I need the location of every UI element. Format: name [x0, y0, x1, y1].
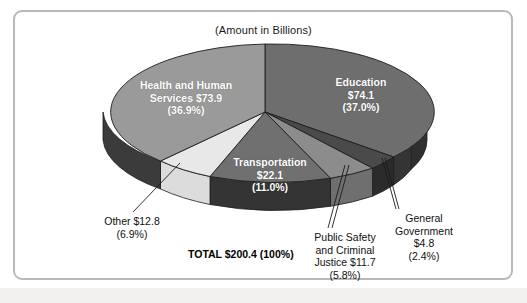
label-health-human-services: Health and Human Services $73.9 (36.9%): [118, 79, 254, 117]
label-general-government-value: $4.8: [378, 237, 470, 250]
label-public-safety-line2: and Criminal: [300, 244, 390, 257]
label-education-percent: (37.0%): [313, 101, 409, 114]
total-label: TOTAL $200.4 (100%): [188, 248, 294, 260]
label-transportation-name: Transportation: [215, 156, 325, 169]
label-other-percent: (6.9%): [80, 228, 184, 241]
label-education: Education $74.1 (37.0%): [313, 76, 409, 114]
label-other-name-value: Other $12.8: [80, 215, 184, 228]
label-transportation: Transportation $22.1 (11.0%): [215, 156, 325, 194]
label-public-safety: Public Safety and Criminal Justice $11.7…: [300, 231, 390, 281]
label-education-value: $74.1: [313, 89, 409, 102]
label-general-government-line1: General: [378, 212, 470, 225]
label-public-safety-line1: Public Safety: [300, 231, 390, 244]
chart-area: (Amount in Billions): [0, 0, 527, 303]
label-hhs-line1: Health and Human: [118, 79, 254, 92]
label-general-government: General Government $4.8 (2.4%): [378, 212, 470, 262]
pie-chart-figure: (Amount in Billions): [0, 0, 527, 303]
label-education-name: Education: [313, 76, 409, 89]
label-transportation-percent: (11.0%): [215, 181, 325, 194]
label-general-government-percent: (2.4%): [378, 250, 470, 263]
label-general-government-line2: Government: [378, 225, 470, 238]
label-other: Other $12.8 (6.9%): [80, 215, 184, 240]
label-hhs-percent: (36.9%): [118, 104, 254, 117]
label-public-safety-percent: (5.8%): [300, 269, 390, 282]
label-public-safety-line3: Justice $11.7: [300, 256, 390, 269]
label-hhs-line2: Services $73.9: [118, 92, 254, 105]
label-transportation-value: $22.1: [215, 169, 325, 182]
